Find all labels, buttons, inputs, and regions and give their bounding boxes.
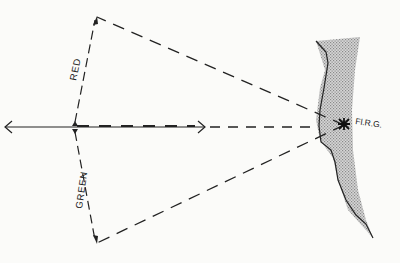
center-arrow-down-icon	[72, 129, 78, 134]
diagram-svg: RED GREEN Fl.R.G.	[0, 0, 400, 263]
green-label: GREEN	[73, 170, 89, 209]
red-label: RED	[67, 57, 83, 82]
red-sector-line	[97, 17, 344, 125]
sector-light-diagram: RED GREEN Fl.R.G.	[0, 0, 400, 263]
land-mass	[316, 37, 373, 238]
light-star-icon	[338, 118, 350, 130]
green-arrowhead-icon	[93, 235, 98, 244]
green-sector-line	[97, 125, 344, 243]
light-characteristic-label: Fl.R.G.	[355, 116, 383, 130]
